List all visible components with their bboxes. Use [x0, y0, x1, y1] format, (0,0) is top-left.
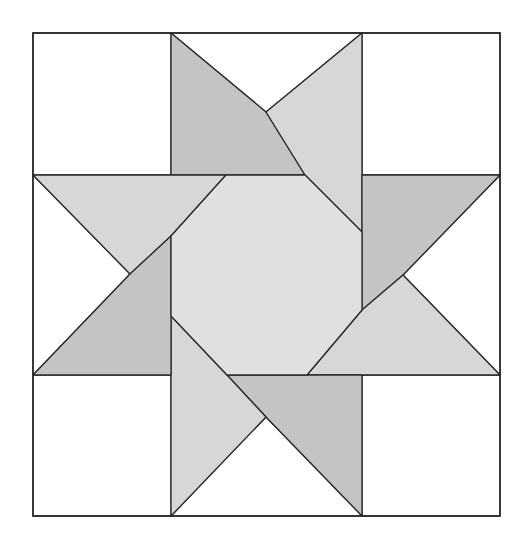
quilt-pieces — [33, 33, 500, 516]
corner-top-right — [362, 33, 500, 175]
quilt-block-diagram — [0, 0, 521, 545]
corner-bottom-right — [362, 375, 500, 516]
corner-top-left — [33, 33, 171, 175]
corner-bottom-left — [33, 375, 171, 516]
